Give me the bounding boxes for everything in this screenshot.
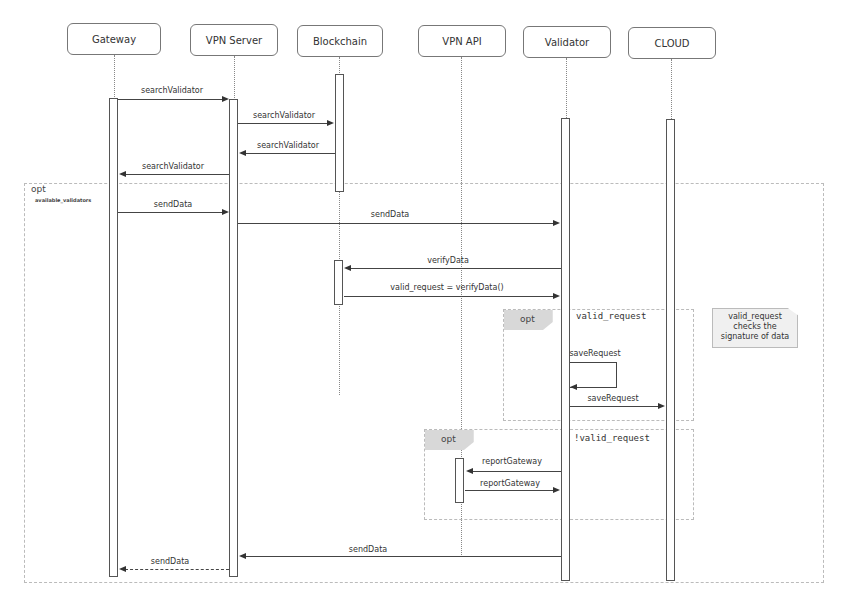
arrow-head-icon [119,566,126,572]
arrow-head-icon [119,171,126,177]
arrow-head-icon [239,150,246,156]
message-label: reportGateway [482,457,542,466]
frame-tag-opt: opt [504,310,553,330]
participant-gateway: Gateway [67,23,161,55]
activation-gateway [109,98,118,577]
arrow-head-icon [570,384,577,390]
arrow-head-icon [466,468,473,474]
participant-cloud: CLOUD [628,27,716,59]
opt-frame-invalid-request: opt [424,429,694,520]
arrow-head-icon [222,96,229,102]
message-send-data [238,223,554,224]
message-search-validator [245,153,335,154]
frame-guard-available-validators: available_validators [35,197,91,203]
participant-vpn-api: VPN API [418,25,506,57]
arrow-head-icon [658,403,665,409]
message-label: searchValidator [257,141,319,150]
message-search-validator [238,123,328,124]
message-label: searchValidator [142,162,204,171]
participant-blockchain: Blockchain [297,25,383,57]
message-send-data [118,212,223,213]
message-save-request-self [570,362,617,388]
participant-validator: Validator [523,26,611,58]
message-label: sendData [349,545,387,554]
frame-tag-opt: opt [425,430,474,450]
message-label: sendData [151,557,189,566]
message-label: sendData [371,210,409,219]
opt-frame-outer: opt available_validators [24,183,824,583]
activation-cloud [666,119,675,581]
message-send-data [245,556,561,557]
message-label: searchValidator [141,86,203,95]
frame-tag-opt: opt [25,182,52,196]
activation-blockchain-1 [335,74,344,192]
arrow-head-icon [344,265,351,271]
message-search-validator [118,99,223,100]
message-label: saveRequest [569,349,620,358]
self-loop-top [570,362,617,363]
message-label: searchValidator [253,111,315,120]
message-valid-request [344,296,554,297]
message-label: reportGateway [480,479,540,488]
message-verify-data [350,268,561,269]
message-save-request [570,406,659,407]
guard-valid-request: valid_request [576,311,646,321]
arrow-head-icon [553,220,560,226]
arrow-head-icon [222,209,229,215]
activation-blockchain-2 [334,260,343,305]
guard-invalid-request: !valid_request [574,433,650,443]
arrow-head-icon [553,293,560,299]
message-label: valid_request = verifyData() [390,283,503,292]
note-valid-request: valid_request checks the signature of da… [712,308,798,348]
message-report-gateway [472,471,561,472]
message-label: verifyData [427,256,469,265]
activation-vpn-api [455,458,464,503]
message-label: sendData [154,200,192,209]
arrow-head-icon [553,487,560,493]
participant-vpn-server: VPN Server [190,24,278,56]
message-send-data [125,569,229,570]
message-search-validator [125,174,229,175]
activation-vpn-server [229,99,238,577]
arrow-head-icon [327,120,334,126]
arrow-head-icon [239,553,246,559]
message-label: saveRequest [587,394,638,403]
message-report-gateway [465,490,554,491]
